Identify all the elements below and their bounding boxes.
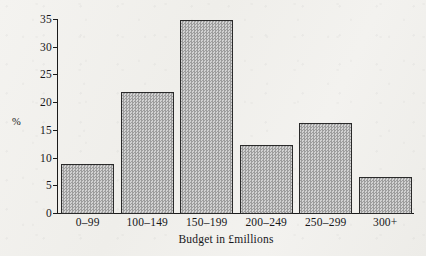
y-tick-label: 30 <box>40 41 52 53</box>
bar <box>359 177 412 214</box>
bar <box>299 123 352 214</box>
y-tick-label: 10 <box>40 152 52 164</box>
y-tick-label: 35 <box>40 13 52 25</box>
x-tick-label: 300+ <box>335 216 426 228</box>
y-tick-label: 20 <box>40 96 52 108</box>
x-axis-title: Budget in £millions <box>0 233 426 245</box>
x-axis-title-text: Budget in £millions <box>178 233 273 245</box>
bar-chart: % Budget in £millions 05101520253035 0–9… <box>0 0 426 256</box>
y-axis-title: % <box>12 116 21 127</box>
bar <box>180 20 233 214</box>
bar <box>240 145 293 214</box>
y-tick-label: 25 <box>40 68 52 80</box>
y-tick-label: 15 <box>40 124 52 136</box>
bar <box>121 92 174 214</box>
bar <box>61 164 114 214</box>
bars-group <box>57 19 413 214</box>
y-tick-label: 5 <box>46 179 52 191</box>
